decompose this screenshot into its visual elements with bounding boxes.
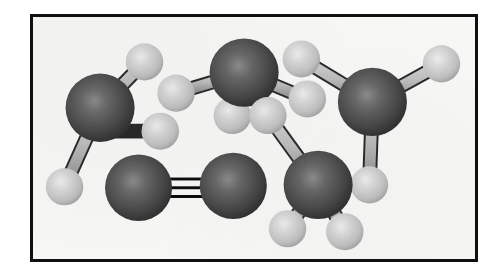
atom-hydrogen-H2c [289, 80, 326, 117]
molecular-model-scene [33, 17, 475, 259]
atom-layer [46, 38, 460, 250]
atom-hydrogen-H3b [423, 45, 460, 82]
figure-frame-border [30, 14, 478, 262]
atom-heavy-C1 [66, 74, 135, 142]
atom-diatomic-left [105, 155, 172, 221]
atom-hydrogen-H4c [326, 213, 363, 250]
atom-heavy-C3 [338, 68, 407, 136]
atom-hydrogen-H3a [283, 40, 320, 77]
atom-diatomic-right [200, 153, 267, 219]
figure-root: ball-and-stick molecular model illustrat… [0, 0, 503, 271]
atom-heavy-C2 [210, 38, 279, 106]
atom-hydrogen-H1c [46, 168, 83, 205]
atom-hydrogen-H1b [142, 113, 179, 150]
atom-hydrogen-H2a [157, 75, 194, 112]
atom-hydrogen-H4a [249, 97, 286, 134]
atom-hydrogen-H4b [269, 210, 306, 247]
atom-hydrogen-H1a [126, 43, 163, 80]
atom-hydrogen-H3c [351, 166, 388, 203]
atom-heavy-C4 [284, 151, 353, 219]
